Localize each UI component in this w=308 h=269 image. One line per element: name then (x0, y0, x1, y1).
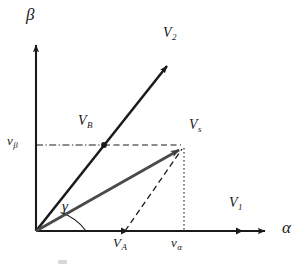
vector-V2-label: V2 (163, 26, 177, 42)
marker-v-alpha-label-base: v (171, 235, 177, 250)
alpha-axis-label: α (282, 219, 291, 236)
marker-v-beta-label-subscript: β (13, 140, 18, 150)
marker-VA-label: VA (113, 236, 127, 252)
page-scan-artifact (58, 260, 67, 264)
marker-VB-label-base: V (78, 113, 87, 128)
tick-marks (101, 142, 243, 234)
marker-V1-label-subscript: 1 (238, 202, 243, 212)
marker-V1-label: V1 (229, 196, 243, 212)
space-vector-diagram: α β V2 Vs V1 VA vα vβ VB γ (0, 0, 308, 269)
marker-VB-label-subscript: B (87, 120, 93, 130)
VA-to-Vs-line (125, 149, 182, 231)
vector-Vs-label-subscript: s (198, 124, 202, 134)
diagram-canvas (0, 0, 308, 269)
vector-Vs-label-base: V (189, 117, 198, 132)
vector-Vs (36, 150, 179, 231)
vector-Vs-label: Vs (189, 118, 202, 134)
gamma-angle-label: γ (62, 199, 68, 214)
marker-v-alpha-label: vα (171, 236, 182, 252)
marker-VA-label-base: V (113, 235, 121, 250)
vector-V2-label-base: V (163, 25, 172, 40)
tick-V1 (236, 228, 243, 235)
marker-V1-label-base: V (229, 195, 238, 210)
vector-V2-label-subscript: 2 (172, 32, 177, 42)
marker-VB-label: VB (78, 114, 93, 130)
marker-v-alpha-label-subscript: α (177, 242, 182, 252)
marker-v-beta-label: vβ (7, 134, 18, 150)
vector-V2 (36, 66, 167, 231)
beta-axis-label: β (26, 6, 34, 23)
vectors (36, 66, 179, 231)
tick-VB (101, 142, 107, 148)
marker-VA-label-subscript: A (121, 242, 127, 252)
marker-v-beta-label-base: v (7, 133, 13, 148)
